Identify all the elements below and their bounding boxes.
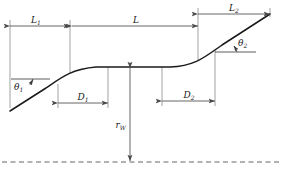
theta2-arrow [234,46,236,49]
label-l: L [132,15,139,25]
dimension-d2: D2 [162,90,215,101]
dimension-l: L [72,15,198,26]
profile-diagram: L1 L L2 D1 D2 [0,0,282,184]
label-d1: D1 [76,92,88,103]
extension-lines [10,8,270,108]
label-l1: L1 [30,15,41,26]
label-d2: D2 [182,90,194,101]
label-theta2: θ2 [238,38,247,49]
angle-theta1: θ1 [11,79,50,93]
dimension-l2: L2 [198,3,270,14]
diagram-canvas: L1 L L2 D1 D2 [0,0,282,184]
label-l2: L2 [228,3,239,14]
label-theta1: θ1 [14,82,23,93]
profile-curve [10,14,270,111]
dimension-l1: L1 [10,15,70,26]
dimension-rw: rW [116,68,130,161]
dimension-d1: D1 [58,92,108,103]
label-rw: rW [116,120,127,131]
